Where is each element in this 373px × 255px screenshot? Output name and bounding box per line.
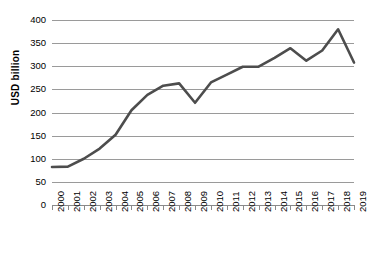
x-axis-tick bbox=[211, 205, 212, 210]
x-axis-tick bbox=[290, 205, 291, 210]
x-axis-tick bbox=[147, 205, 148, 210]
x-axis-tick-label: 2018 bbox=[342, 191, 352, 212]
x-axis-tick-label: 2006 bbox=[151, 191, 161, 212]
x-axis-tick bbox=[195, 205, 196, 210]
line-chart: USD billion 050100150200250300350400 200… bbox=[0, 0, 373, 255]
y-axis-tick-label: 150 bbox=[0, 131, 46, 141]
x-axis-tick-label: 2015 bbox=[294, 191, 304, 212]
x-axis-tick-label: 2003 bbox=[104, 191, 114, 212]
x-axis-tick-label: 2010 bbox=[215, 191, 225, 212]
x-axis-tick-label: 2014 bbox=[279, 191, 289, 212]
y-axis-tick-label: 400 bbox=[0, 15, 46, 25]
y-axis-tick-label: 100 bbox=[0, 154, 46, 164]
x-axis-tick-label: 2000 bbox=[56, 191, 66, 212]
data-line bbox=[52, 29, 354, 167]
y-axis-tick-label: 250 bbox=[0, 84, 46, 94]
x-axis-tick bbox=[163, 205, 164, 210]
x-axis-tick-label: 2019 bbox=[358, 191, 368, 212]
x-axis-tick bbox=[68, 205, 69, 210]
x-axis-tick bbox=[259, 205, 260, 210]
y-axis-tick-label: 200 bbox=[0, 108, 46, 118]
y-axis-tick-label: 300 bbox=[0, 61, 46, 71]
x-axis-tick bbox=[338, 205, 339, 210]
x-axis-tick-label: 2008 bbox=[183, 191, 193, 212]
x-axis-tick bbox=[306, 205, 307, 210]
x-axis-tick bbox=[52, 205, 53, 210]
x-axis-tick-labels: 2000200120022003200420052006200720082009… bbox=[52, 212, 354, 254]
x-axis-tick-label: 2016 bbox=[310, 191, 320, 212]
x-axis-tick-label: 2011 bbox=[231, 192, 241, 212]
x-axis-tick bbox=[179, 205, 180, 210]
y-axis-tick-labels: 050100150200250300350400 bbox=[0, 0, 46, 255]
x-axis-tick bbox=[354, 205, 355, 210]
x-axis-tick-label: 2013 bbox=[263, 191, 273, 212]
series-line bbox=[52, 20, 354, 205]
x-axis-tick-label: 2004 bbox=[120, 191, 130, 212]
x-axis-tick-label: 2001 bbox=[72, 191, 82, 212]
x-axis-tick-label: 2005 bbox=[135, 191, 145, 212]
x-axis-tick-label: 2012 bbox=[247, 191, 257, 212]
x-axis-tick bbox=[275, 205, 276, 210]
x-axis-tick-label: 2017 bbox=[326, 191, 336, 212]
x-axis-tick bbox=[84, 205, 85, 210]
x-axis-tick-label: 2002 bbox=[88, 191, 98, 212]
x-axis-tick bbox=[131, 205, 132, 210]
y-axis-tick-label: 50 bbox=[0, 177, 46, 187]
x-axis-tick-label: 2009 bbox=[199, 191, 209, 212]
x-axis-tick bbox=[116, 205, 117, 210]
plot-area bbox=[52, 20, 354, 205]
x-axis-tick bbox=[322, 205, 323, 210]
y-axis-tick-label: 0 bbox=[0, 200, 46, 210]
x-axis-tick bbox=[227, 205, 228, 210]
y-axis-tick-label: 350 bbox=[0, 38, 46, 48]
x-axis-tick bbox=[243, 205, 244, 210]
x-axis-tick-label: 2007 bbox=[167, 191, 177, 212]
x-axis-tick bbox=[100, 205, 101, 210]
